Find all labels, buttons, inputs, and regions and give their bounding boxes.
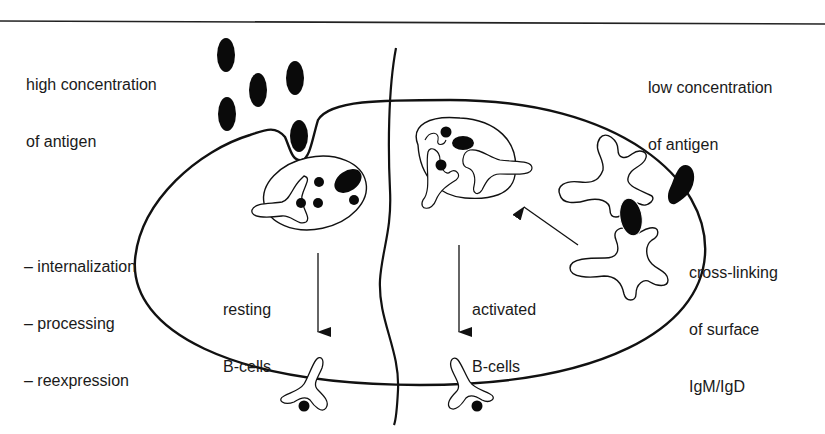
label-line: low concentration [648, 78, 773, 97]
antigen-cluster-high [217, 38, 304, 131]
label-line: cross-linking [689, 263, 778, 282]
endosome-activated [416, 117, 532, 208]
label-line: of surface [689, 320, 778, 339]
label-low-concentration: low concentration of antigen [648, 40, 773, 192]
endosome-resting [252, 147, 374, 239]
label-line: activated [472, 300, 536, 319]
label-processing-steps: – internalization – processing – reexpre… [24, 219, 136, 428]
antigen-internalizing [290, 120, 308, 152]
label-line: – processing [24, 314, 136, 333]
label-line: – reexpression [24, 371, 136, 390]
label-line: – internalization [24, 257, 136, 276]
b-cell-antigen-diagram: high concentration of antigen low concen… [0, 0, 825, 434]
label-resting-b-cells: resting B-cells [223, 262, 271, 414]
surface-receptor-lower [570, 228, 668, 300]
arrow-crosslink-in [524, 207, 578, 245]
label-cross-linking: cross-linking of surface IgM/IgD [689, 225, 778, 434]
label-line: of antigen [26, 132, 157, 151]
label-activated-b-cells: activated B-cells [472, 262, 536, 414]
label-line: B-cells [223, 357, 271, 376]
label-line: IgM/IgD [689, 377, 778, 396]
label-line: resting [223, 300, 271, 319]
divider-line [380, 48, 398, 425]
receptor-presented-resting [281, 358, 328, 412]
label-high-concentration: high concentration of antigen [26, 37, 157, 189]
label-line: of antigen [648, 135, 773, 154]
top-rule [0, 21, 825, 24]
label-line: B-cells [472, 357, 536, 376]
label-line: high concentration [26, 75, 157, 94]
